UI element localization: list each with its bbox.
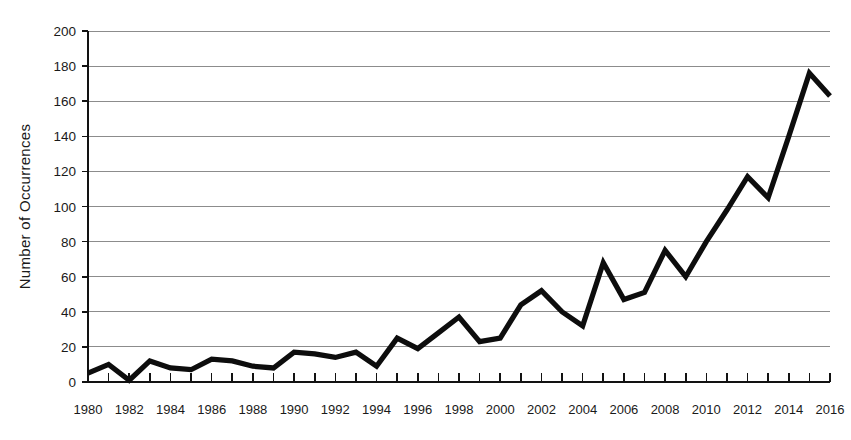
y-tick-label: 100 [53, 200, 76, 215]
y-tick-label: 120 [53, 164, 76, 179]
x-tick-label: 1998 [445, 402, 474, 417]
x-tick-labels: 1980198219841986198819901992199419961998… [74, 402, 845, 417]
x-tick-label: 2008 [651, 402, 680, 417]
y-tick-label: 180 [53, 59, 76, 74]
x-tick-label: 2006 [609, 402, 638, 417]
y-tick-label: 200 [53, 24, 76, 39]
series-line-occurrences [88, 73, 830, 380]
x-tick-label: 1982 [115, 402, 144, 417]
x-tick-label: 1994 [362, 402, 391, 417]
x-tick-label: 1990 [280, 402, 309, 417]
y-tick-label: 40 [61, 305, 76, 320]
x-tick-label: 1988 [238, 402, 267, 417]
data-series [88, 73, 830, 380]
x-tick-label: 2016 [816, 402, 845, 417]
chart-container: 020406080100120140160180200 198019821984… [0, 0, 851, 440]
y-tick-label: 0 [68, 375, 76, 390]
y-axis-title-text: Number of Occurrences [16, 124, 33, 290]
x-tick-label: 1996 [403, 402, 432, 417]
y-tick-labels: 020406080100120140160180200 [53, 24, 76, 390]
x-tick-label: 2012 [733, 402, 762, 417]
y-tick-label: 60 [61, 270, 76, 285]
x-tick-label: 2000 [486, 402, 515, 417]
y-tick-label: 80 [61, 235, 76, 250]
x-tick-label: 1992 [321, 402, 350, 417]
x-axis [88, 373, 830, 382]
x-tick-label: 2010 [692, 402, 721, 417]
x-tick-label: 1986 [197, 402, 226, 417]
x-tick-label: 2014 [774, 402, 803, 417]
y-axis-title: Number of Occurrences [16, 124, 33, 290]
gridlines [88, 31, 830, 347]
x-tick-label: 2002 [527, 402, 556, 417]
y-tick-label: 160 [53, 94, 76, 109]
x-tick-label: 2004 [568, 402, 597, 417]
x-tick-label: 1980 [74, 402, 103, 417]
y-tick-label: 20 [61, 340, 76, 355]
y-tick-label: 140 [53, 129, 76, 144]
y-axis [82, 31, 88, 382]
x-tick-label: 1984 [156, 402, 185, 417]
line-chart: 020406080100120140160180200 198019821984… [0, 0, 851, 440]
